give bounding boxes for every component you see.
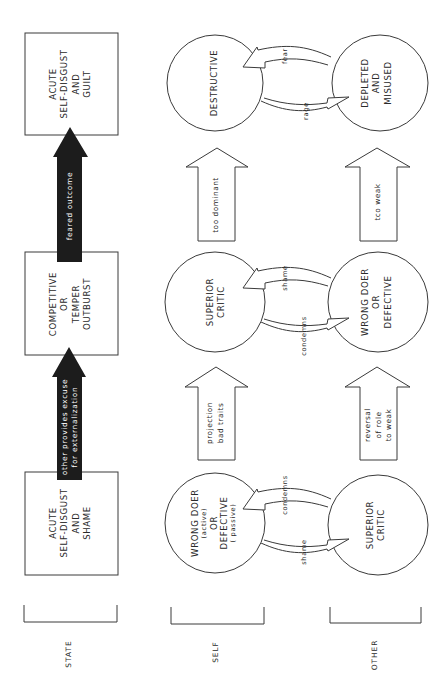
column-label-state: STATE xyxy=(64,640,74,667)
other-circle-1-text: SUPERIOR CRITIC xyxy=(365,501,388,549)
to-self-arrow-3-label: fear xyxy=(281,48,290,64)
self-transition-1-label: projection bad traits xyxy=(205,402,226,444)
other-circle-3-text: DEPLETED AND MISUSED xyxy=(360,58,394,108)
state-transition-2-label: feared outcome xyxy=(65,172,75,240)
to-self-arrow-2-label: shame xyxy=(281,265,290,291)
state-box-3-text: ACUTE SELF-DISGUST AND GUILT xyxy=(48,49,93,118)
other-circle-2-text: WRONG DOER OR DEFECTIVE xyxy=(360,268,394,336)
other-transition-1-label: reversal of role to weak xyxy=(363,408,395,442)
self-circle-2-text: SUPERIOR CRITIC xyxy=(205,278,228,326)
diagram-canvas: ACUTE SELF-DISGUST AND GUILT COMPETITIVE… xyxy=(0,0,439,687)
state-box-2-text: COMPETITIVE OR TEMPER OUTBURST xyxy=(48,272,93,336)
state-transition-1-label: other provides excuse for externalizatio… xyxy=(60,379,81,476)
self-circle-3-text: DESTRUCTIVE xyxy=(209,50,220,117)
other-bracket xyxy=(330,607,421,623)
other-transition-2-label: tco weak xyxy=(373,183,384,220)
to-other-arrow-1-label: shame xyxy=(300,539,309,565)
self-bracket xyxy=(171,607,264,624)
to-other-arrow-3-label: rage xyxy=(302,102,311,120)
column-label-self: SELF xyxy=(211,641,221,663)
self-transition-2-label: too dominant xyxy=(211,177,222,233)
self-circle-1-text: WRONG DOER (active) OR DEFECTIVE ( passi… xyxy=(190,489,238,557)
state-bracket xyxy=(24,605,117,622)
column-label-other: OTHER xyxy=(370,640,380,671)
to-other-arrow-2-label: condemns xyxy=(300,316,309,356)
to-self-arrow-1-label: condemns xyxy=(281,475,290,515)
state-box-1-text: ACUTE SELF-DISGUST AND SHAME xyxy=(48,488,93,557)
